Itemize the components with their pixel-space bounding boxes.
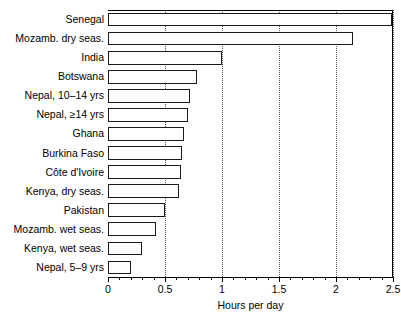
bar-row bbox=[108, 89, 393, 103]
x-tick-minor bbox=[256, 277, 257, 280]
bar-row bbox=[108, 203, 393, 217]
bar-row bbox=[108, 165, 393, 179]
x-tick-minor bbox=[131, 277, 132, 280]
category-label: India bbox=[81, 52, 104, 63]
x-tick-minor bbox=[268, 277, 269, 280]
bar-row bbox=[108, 70, 393, 84]
bar-row bbox=[108, 51, 393, 65]
x-tick-minor bbox=[188, 277, 189, 280]
bar bbox=[108, 51, 222, 65]
category-label: Kenya, wet seas. bbox=[24, 243, 104, 254]
category-axis-labels: SenegalMozamb. dry seas.IndiaBotswanaNep… bbox=[0, 10, 104, 277]
x-tick-minor bbox=[370, 277, 371, 280]
x-tick-minor bbox=[154, 277, 155, 280]
x-tick-major bbox=[165, 277, 166, 282]
x-tick-minor bbox=[359, 277, 360, 280]
x-axis-line bbox=[108, 277, 393, 278]
bar bbox=[108, 108, 188, 122]
category-label: Ghana bbox=[72, 128, 104, 139]
x-tick-major bbox=[279, 277, 280, 282]
x-tick-minor bbox=[347, 277, 348, 280]
x-tick-minor bbox=[233, 277, 234, 280]
category-label: Nepal, 5–9 yrs bbox=[36, 262, 104, 273]
bar bbox=[108, 184, 179, 198]
x-tick-label: 0 bbox=[105, 283, 111, 295]
bar-row bbox=[108, 13, 393, 27]
x-tick-minor bbox=[211, 277, 212, 280]
category-label: Mozamb. dry seas. bbox=[15, 33, 104, 44]
x-tick-minor bbox=[313, 277, 314, 280]
x-tick-minor bbox=[142, 277, 143, 280]
x-tick-label: 0.5 bbox=[158, 283, 173, 295]
bar-row bbox=[108, 261, 393, 275]
bar bbox=[108, 261, 131, 275]
plot-area bbox=[108, 10, 393, 277]
x-tick-minor bbox=[199, 277, 200, 280]
bar-row bbox=[108, 184, 393, 198]
bar bbox=[108, 165, 181, 179]
category-label: Côte d'Ivoire bbox=[45, 167, 104, 178]
bar-row bbox=[108, 146, 393, 160]
category-label: Pakistan bbox=[64, 205, 104, 216]
bar bbox=[108, 70, 197, 84]
bar-row bbox=[108, 32, 393, 46]
x-axis-title: Hours per day bbox=[108, 299, 393, 311]
x-tick-major bbox=[222, 277, 223, 282]
x-tick-label: 1.5 bbox=[272, 283, 287, 295]
x-tick-label: 1 bbox=[219, 283, 225, 295]
category-label: Nepal, 10–14 yrs bbox=[25, 90, 104, 101]
x-tick-label: 2.5 bbox=[386, 283, 401, 295]
bar bbox=[108, 146, 182, 160]
x-tick-minor bbox=[245, 277, 246, 280]
x-tick-minor bbox=[382, 277, 383, 280]
bar bbox=[108, 222, 156, 236]
x-tick-minor bbox=[302, 277, 303, 280]
bar-row bbox=[108, 127, 393, 141]
bar bbox=[108, 203, 165, 217]
category-label: Senegal bbox=[65, 14, 104, 25]
x-tick-label: 2 bbox=[333, 283, 339, 295]
bar-row bbox=[108, 108, 393, 122]
gridline-2-5 bbox=[393, 10, 394, 277]
x-tick-minor bbox=[290, 277, 291, 280]
bar bbox=[108, 89, 190, 103]
category-label: Kenya, dry seas. bbox=[26, 186, 104, 197]
x-tick-minor bbox=[325, 277, 326, 280]
category-label: Nepal, ≥14 yrs bbox=[36, 109, 104, 120]
x-tick-minor bbox=[176, 277, 177, 280]
bar-chart-figure: SenegalMozamb. dry seas.IndiaBotswanaNep… bbox=[0, 0, 401, 320]
category-label: Botswana bbox=[58, 71, 104, 82]
category-label: Burkina Faso bbox=[42, 148, 104, 159]
x-tick-major bbox=[108, 277, 109, 282]
bar-row bbox=[108, 242, 393, 256]
bar-row bbox=[108, 222, 393, 236]
category-label: Mozamb. wet seas. bbox=[14, 224, 104, 235]
bar bbox=[108, 13, 392, 27]
bar bbox=[108, 32, 353, 46]
x-tick-major bbox=[336, 277, 337, 282]
x-tick-major bbox=[393, 277, 394, 282]
bar bbox=[108, 242, 142, 256]
x-tick-minor bbox=[119, 277, 120, 280]
bar bbox=[108, 127, 184, 141]
